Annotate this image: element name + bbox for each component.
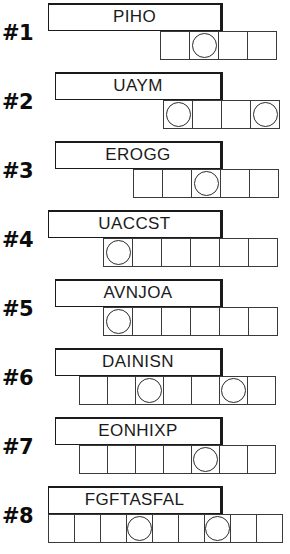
answer-cell[interactable] xyxy=(248,307,278,336)
answer-cell[interactable] xyxy=(190,238,220,267)
puzzle-row: #2UAYM xyxy=(0,70,290,139)
scrambled-word-box: EROGG xyxy=(55,141,223,169)
answer-cell-circled[interactable] xyxy=(126,514,153,543)
answer-cell-circled[interactable] xyxy=(189,31,219,60)
scrambled-word-text: PIHO xyxy=(113,8,156,25)
answer-cell[interactable] xyxy=(135,445,164,474)
scrambled-word-text: AVNJOA xyxy=(103,284,172,301)
puzzle-row: #6DAINISN xyxy=(0,346,290,415)
answer-cell-circled[interactable] xyxy=(219,376,248,405)
answer-cell[interactable] xyxy=(247,31,277,60)
scrambled-word-box: DAINISN xyxy=(55,348,223,376)
puzzle-row: #5AVNJOA xyxy=(0,277,290,346)
answer-cell[interactable] xyxy=(249,169,279,198)
answer-cell[interactable] xyxy=(219,238,249,267)
answer-cell[interactable] xyxy=(160,31,190,60)
answer-cell-circled[interactable] xyxy=(204,514,231,543)
answer-cell[interactable] xyxy=(221,100,251,129)
answer-cell[interactable] xyxy=(107,376,136,405)
answer-cell[interactable] xyxy=(190,307,220,336)
puzzle-row: #8FGFTASFAL xyxy=(0,484,290,553)
scrambled-word-text: FGFTASFAL xyxy=(85,491,185,508)
answer-cell[interactable] xyxy=(191,376,220,405)
answer-cell-circled[interactable] xyxy=(191,445,220,474)
answer-cell-circled[interactable] xyxy=(250,100,280,129)
answer-cell[interactable] xyxy=(107,445,136,474)
scrambled-word-text: UACCST xyxy=(98,215,170,232)
puzzle-number-label: #1 xyxy=(2,23,46,44)
scrambled-word-text: DAINISN xyxy=(102,353,174,370)
answer-cell[interactable] xyxy=(162,169,192,198)
answer-grid xyxy=(160,31,277,60)
scrambled-word-text: UAYM xyxy=(113,77,162,94)
puzzle-number-label: #7 xyxy=(2,437,46,458)
answer-cell[interactable] xyxy=(256,514,283,543)
answer-cell[interactable] xyxy=(100,514,127,543)
answer-cell-circled[interactable] xyxy=(163,100,193,129)
answer-cell-circled[interactable] xyxy=(135,376,164,405)
scrambled-word-box: UACCST xyxy=(48,210,223,238)
answer-cell[interactable] xyxy=(163,376,192,405)
scrambled-word-box: PIHO xyxy=(48,3,223,31)
scrambled-word-box: AVNJOA xyxy=(55,279,223,307)
puzzle-number-label: #3 xyxy=(2,161,46,182)
answer-cell[interactable] xyxy=(163,445,192,474)
scrambled-word-box: UAYM xyxy=(55,72,223,100)
puzzle-row: #3EROGG xyxy=(0,139,290,208)
puzzle-row: #7EONHIXP xyxy=(0,415,290,484)
answer-cell[interactable] xyxy=(79,445,108,474)
answer-grid xyxy=(103,238,278,267)
scrambled-word-text: EROGG xyxy=(105,146,170,163)
answer-cell[interactable] xyxy=(247,445,276,474)
answer-grid xyxy=(133,169,279,198)
answer-grid xyxy=(103,307,278,336)
answer-grid xyxy=(163,100,280,129)
answer-cell[interactable] xyxy=(79,376,108,405)
scrambled-word-box: EONHIXP xyxy=(55,417,223,445)
answer-cell-circled[interactable] xyxy=(103,238,133,267)
answer-cell[interactable] xyxy=(161,238,191,267)
scrambled-word-text: EONHIXP xyxy=(98,422,177,439)
answer-grid xyxy=(48,514,283,543)
answer-cell[interactable] xyxy=(248,238,278,267)
puzzle-row: #4UACCST xyxy=(0,208,290,277)
answer-cell[interactable] xyxy=(219,307,249,336)
answer-cell[interactable] xyxy=(247,376,276,405)
answer-cell-circled[interactable] xyxy=(103,307,133,336)
answer-cell[interactable] xyxy=(132,238,162,267)
answer-cell[interactable] xyxy=(132,307,162,336)
answer-cell[interactable] xyxy=(74,514,101,543)
puzzle-row: #1PIHO xyxy=(0,1,290,70)
answer-cell[interactable] xyxy=(161,307,191,336)
answer-cell[interactable] xyxy=(192,100,222,129)
answer-cell[interactable] xyxy=(133,169,163,198)
answer-cell[interactable] xyxy=(178,514,205,543)
answer-cell[interactable] xyxy=(230,514,257,543)
answer-cell[interactable] xyxy=(152,514,179,543)
answer-cell-circled[interactable] xyxy=(191,169,221,198)
answer-cell[interactable] xyxy=(48,514,75,543)
worksheet-sheet: #1PIHO#2UAYM#3EROGG#4UACCST#5AVNJOA#6DAI… xyxy=(0,0,290,554)
puzzle-number-label: #6 xyxy=(2,368,46,389)
answer-grid xyxy=(79,445,276,474)
answer-cell[interactable] xyxy=(218,31,248,60)
puzzle-number-label: #5 xyxy=(2,299,46,320)
answer-cell[interactable] xyxy=(219,445,248,474)
puzzle-number-label: #4 xyxy=(2,230,46,251)
answer-grid xyxy=(79,376,276,405)
scrambled-word-box: FGFTASFAL xyxy=(48,486,223,514)
answer-cell[interactable] xyxy=(220,169,250,198)
puzzle-number-label: #8 xyxy=(2,506,46,527)
puzzle-number-label: #2 xyxy=(2,92,46,113)
